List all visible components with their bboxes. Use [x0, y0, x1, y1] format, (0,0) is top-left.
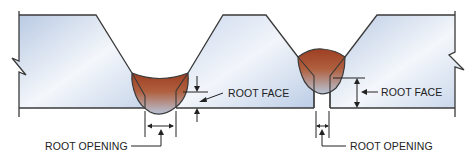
right-root-opening-label: ROOT OPENING: [350, 140, 433, 152]
left-root-opening-dimension: [131, 111, 176, 146]
right-plate: [330, 11, 464, 117]
right-root-face-label: ROOT FACE: [381, 86, 442, 98]
left-root-face-label: ROOT FACE: [228, 87, 289, 99]
right-root-opening-dimension: [316, 111, 346, 146]
left-plate: [12, 11, 145, 117]
weld-joint-diagram: [0, 0, 466, 162]
left-root-opening-label: ROOT OPENING: [45, 140, 128, 152]
